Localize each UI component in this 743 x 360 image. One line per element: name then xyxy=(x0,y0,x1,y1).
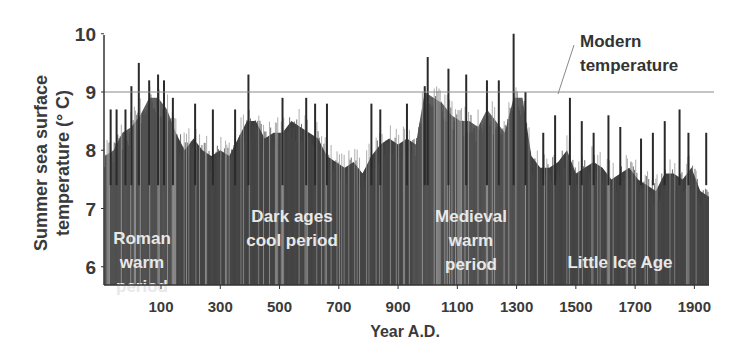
y-tick-label: 6 xyxy=(85,257,96,278)
period-label-2: warm xyxy=(448,231,493,250)
modern-temperature-label-line2: temperature xyxy=(580,56,678,75)
x-tick-label: 1700 xyxy=(618,298,651,315)
x-tick-label: 300 xyxy=(208,298,233,315)
period-label-0: warm xyxy=(119,253,164,272)
period-label-1: Dark ages xyxy=(251,207,332,226)
x-tick-label: 1300 xyxy=(500,298,533,315)
period-label-1: cool period xyxy=(246,231,338,250)
y-tick-label: 7 xyxy=(85,199,96,220)
y-tick-label: 9 xyxy=(85,82,96,103)
x-axis-ticks: 10030050070090011001300150017001900 xyxy=(149,285,712,315)
temperature-chart: Modern temperature RomanwarmperiodDark a… xyxy=(0,0,743,360)
svg-text:temperature (° C): temperature (° C) xyxy=(53,90,73,236)
y-tick-label: 10 xyxy=(75,24,96,45)
y-axis-ticks: 678910 xyxy=(75,24,104,278)
modern-temperature-label: Modern xyxy=(580,32,641,51)
x-tick-label: 1500 xyxy=(559,298,592,315)
x-tick-label: 1100 xyxy=(441,298,474,315)
x-tick-label: 900 xyxy=(386,298,411,315)
period-label-2: period xyxy=(445,255,497,274)
svg-text:Summer sea surface: Summer sea surface xyxy=(31,75,51,251)
x-tick-label: 1900 xyxy=(678,298,711,315)
x-tick-label: 100 xyxy=(149,298,174,315)
x-tick-label: 500 xyxy=(267,298,292,315)
x-tick-label: 700 xyxy=(326,298,351,315)
y-tick-label: 8 xyxy=(85,140,96,161)
y-axis-title: Summer sea surface temperature (° C) xyxy=(31,75,73,251)
period-label-0: Roman xyxy=(113,229,171,248)
period-label-0: period xyxy=(116,277,168,296)
modern-temperature-pointer xyxy=(558,45,574,94)
x-axis-title: Year A.D. xyxy=(370,323,440,340)
period-label-2: Medieval xyxy=(435,207,507,226)
period-label-3: Little Ice Age xyxy=(567,253,672,272)
